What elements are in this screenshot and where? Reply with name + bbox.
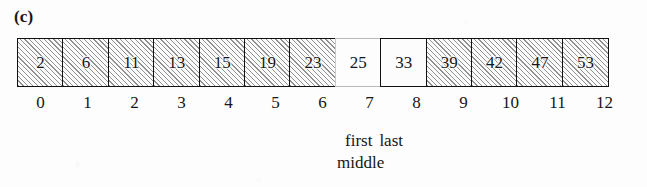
index-row: 0123456789101112: [17, 92, 628, 113]
array-cell: 25: [335, 38, 382, 87]
array-cell: 33: [380, 38, 427, 87]
array-cell-value: 39: [440, 54, 459, 71]
array-index-label: 1: [64, 92, 111, 113]
array-cell-value: 53: [576, 54, 595, 71]
array-cell-value: 6: [81, 54, 92, 71]
array-cell: 11: [108, 38, 155, 87]
pointer-label-first-last: firstlast: [345, 130, 403, 152]
array-index-label: 12: [581, 92, 628, 113]
array-index-label: 2: [111, 92, 158, 113]
array-cell-value: 11: [122, 54, 140, 71]
array-cell-value: 19: [258, 54, 277, 71]
array-cell: 47: [516, 38, 563, 87]
array-cell: 13: [153, 38, 200, 87]
array-cell-value: 42: [485, 54, 504, 71]
array-index-label: 11: [534, 92, 581, 113]
array-cell: 6: [62, 38, 109, 87]
array-index-label: 8: [393, 92, 440, 113]
array-cell: 2: [17, 38, 64, 87]
array-cell-value: 15: [213, 54, 232, 71]
array-cell: 15: [199, 38, 246, 87]
array-cell: 39: [426, 38, 473, 87]
array-index-label: 7: [346, 92, 393, 113]
array-cell-value: 23: [303, 54, 322, 71]
array-index-label: 6: [299, 92, 346, 113]
array-cell-value: 25: [349, 54, 368, 71]
pointer-label-first: first: [345, 131, 372, 150]
binary-search-array-figure: (c) 261113151923253339424753 01234567891…: [0, 0, 647, 187]
array-cell-value: 33: [394, 54, 413, 71]
array-index-label: 5: [252, 92, 299, 113]
pointer-label-last: last: [379, 131, 403, 150]
array-index-label: 0: [17, 92, 64, 113]
array-index-label: 10: [487, 92, 534, 113]
pointer-label-middle: middle: [337, 152, 384, 174]
panel-label: (c): [14, 7, 33, 27]
array-index-label: 9: [440, 92, 487, 113]
array-index-label: 4: [205, 92, 252, 113]
array-cell-value: 47: [530, 54, 549, 71]
array-index-label: 3: [158, 92, 205, 113]
array-row: 261113151923253339424753: [17, 38, 609, 87]
array-cell: 19: [244, 38, 291, 87]
array-cell-value: 2: [35, 54, 46, 71]
array-cell: 53: [562, 38, 609, 87]
array-cell-value: 13: [167, 54, 186, 71]
array-cell: 23: [289, 38, 336, 87]
array-cell: 42: [471, 38, 518, 87]
